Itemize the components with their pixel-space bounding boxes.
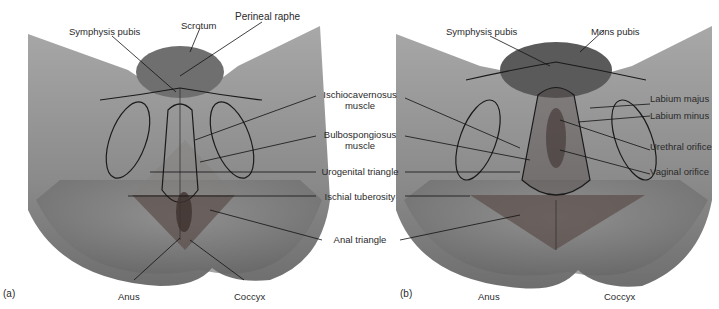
label-b-anus: Anus xyxy=(478,291,500,302)
label-a-anus: Anus xyxy=(118,291,140,302)
label-a-coccyx: Coccyx xyxy=(234,291,265,302)
perineum-diagram: Symphysis pubis Scrotum Perineal raphe I… xyxy=(0,0,719,309)
label-ischiocavernosus-muscle: Ischiocavernosus muscle xyxy=(318,89,402,111)
label-a-symphysis-pubis: Symphysis pubis xyxy=(69,26,140,37)
label-b-symphysis-pubis: Symphysis pubis xyxy=(446,26,517,37)
illustration xyxy=(0,0,719,309)
panel-a-art xyxy=(28,26,330,286)
label-b-labium-minus: Labium minus xyxy=(650,110,709,121)
panel-b-tag: (b) xyxy=(400,288,412,299)
label-a-perineal-raphe: Perineal raphe xyxy=(235,11,300,22)
label-b-mons-pubis: Mons pubis xyxy=(591,26,640,37)
label-bulbospongiosus-muscle: Bulbospongiosus muscle xyxy=(318,129,402,151)
label-ischial-tuberosity: Ischial tuberosity xyxy=(318,191,402,202)
label-b-urethral-orifice: Urethral orifice xyxy=(650,141,712,152)
label-anal-triangle: Anal triangle xyxy=(322,234,398,245)
label-urogenital-triangle: Urogenital triangle xyxy=(316,166,404,177)
label-b-labium-majus: Labium majus xyxy=(650,93,709,104)
label-b-vaginal-orifice: Vaginal orifice xyxy=(650,166,709,177)
label-b-coccyx: Coccyx xyxy=(604,291,635,302)
panel-b-art xyxy=(396,26,712,289)
label-a-scrotum: Scrotum xyxy=(181,20,216,31)
panel-a-tag: (a) xyxy=(3,288,15,299)
